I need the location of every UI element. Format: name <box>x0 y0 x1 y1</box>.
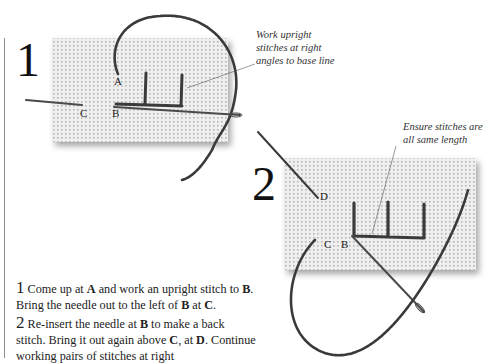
step2-fabric <box>284 158 476 270</box>
step1-caption: Work upright stitches at right angles to… <box>256 28 334 67</box>
point-label: C <box>204 298 213 312</box>
point-label: A <box>87 282 96 296</box>
step1-label-a: A <box>114 75 122 87</box>
instruction-2-text: 2 Re-insert the needle at B to make a ba… <box>16 315 256 364</box>
instruction-1: 1 Come up at A and work an upright stitc… <box>16 280 256 313</box>
instruction-2: 2 Re-insert the needle at B to make a ba… <box>16 315 256 364</box>
step1-fabric <box>52 38 228 142</box>
instruction-segment: Re-insert the needle at <box>25 317 140 331</box>
instruction-segment: . <box>213 298 216 312</box>
step2-label-d: D <box>320 190 328 202</box>
step2-label-c: C <box>324 238 331 250</box>
instruction-segment: Come up at <box>25 282 87 296</box>
step2-label-b: B <box>341 238 348 250</box>
point-label: D <box>196 333 205 347</box>
step2-number: 2 <box>252 160 276 208</box>
point-label: C <box>169 333 178 347</box>
step1-label-c: C <box>80 107 87 119</box>
step1-number: 1 <box>16 36 40 84</box>
point-label: B <box>140 317 148 331</box>
instruction-segment: , at <box>178 333 196 347</box>
instruction-1-text: 1 Come up at A and work an upright stitc… <box>16 280 256 313</box>
instruction-segment: at <box>189 298 204 312</box>
instruction-segment: and work an upright stitch to <box>96 282 243 296</box>
step1-label-b: B <box>112 107 119 119</box>
step2-caption: Ensure stitches are all same length <box>403 120 483 146</box>
